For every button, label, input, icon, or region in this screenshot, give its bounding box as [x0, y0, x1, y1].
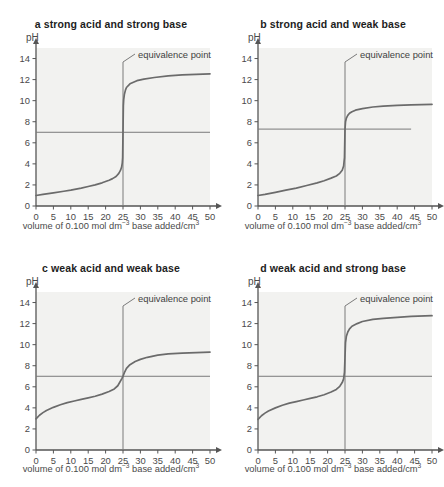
- svg-text:12: 12: [20, 318, 30, 329]
- svg-text:12: 12: [242, 74, 252, 85]
- panel-c-plot: 0246810121405101520253035404550equivalen…: [0, 244, 222, 487]
- svg-text:6: 6: [25, 137, 30, 148]
- panel-b-plot: 0246810121405101520253035404550equivalen…: [222, 0, 444, 244]
- svg-text:10: 10: [242, 339, 252, 350]
- svg-text:0: 0: [25, 444, 30, 455]
- panel-d: d weak acid and strong base pH 024681012…: [222, 244, 444, 487]
- svg-text:10: 10: [20, 95, 30, 106]
- svg-text:8: 8: [247, 360, 252, 371]
- panel-b-x-axis-label: volume of 0.100 mol dm−3 base added/cm3: [222, 219, 444, 231]
- titration-curves-figure: a strong acid and strong base pH 0246810…: [0, 0, 444, 487]
- svg-text:8: 8: [25, 116, 30, 127]
- svg-text:equivalence point: equivalence point: [360, 293, 433, 304]
- svg-text:4: 4: [247, 158, 252, 169]
- svg-text:equivalence point: equivalence point: [360, 49, 433, 60]
- svg-text:equivalence point: equivalence point: [138, 293, 211, 304]
- svg-text:10: 10: [20, 339, 30, 350]
- svg-text:14: 14: [20, 53, 30, 64]
- svg-text:10: 10: [242, 95, 252, 106]
- svg-text:14: 14: [20, 297, 30, 308]
- svg-text:2: 2: [25, 179, 30, 190]
- svg-text:12: 12: [242, 318, 252, 329]
- svg-text:2: 2: [247, 179, 252, 190]
- svg-text:0: 0: [247, 200, 252, 211]
- panel-c: c weak acid and weak base pH 02468101214…: [0, 244, 222, 487]
- panel-c-x-axis-label: volume of 0.100 mol dm−3 base added/cm3: [0, 462, 222, 474]
- svg-text:0: 0: [25, 200, 30, 211]
- svg-text:0: 0: [247, 444, 252, 455]
- panel-d-x-axis-label: volume of 0.100 mol dm−3 base added/cm3: [222, 462, 444, 474]
- panel-a: a strong acid and strong base pH 0246810…: [0, 0, 222, 244]
- svg-text:14: 14: [242, 53, 252, 64]
- svg-text:8: 8: [25, 360, 30, 371]
- svg-text:equivalence point: equivalence point: [138, 49, 211, 60]
- svg-text:4: 4: [247, 402, 252, 413]
- svg-text:6: 6: [247, 381, 252, 392]
- svg-text:2: 2: [25, 423, 30, 434]
- svg-text:4: 4: [25, 158, 30, 169]
- panel-a-plot: 0246810121405101520253035404550equivalen…: [0, 0, 222, 244]
- panel-a-x-axis-label: volume of 0.100 mol dm−3 base added/cm3: [0, 219, 222, 231]
- svg-text:14: 14: [242, 297, 252, 308]
- svg-text:6: 6: [25, 381, 30, 392]
- panel-d-plot: 0246810121405101520253035404550equivalen…: [222, 244, 444, 487]
- svg-text:6: 6: [247, 137, 252, 148]
- svg-text:2: 2: [247, 423, 252, 434]
- svg-text:8: 8: [247, 116, 252, 127]
- svg-text:4: 4: [25, 402, 30, 413]
- svg-text:12: 12: [20, 74, 30, 85]
- panel-b: b strong acid and weak base pH 024681012…: [222, 0, 444, 244]
